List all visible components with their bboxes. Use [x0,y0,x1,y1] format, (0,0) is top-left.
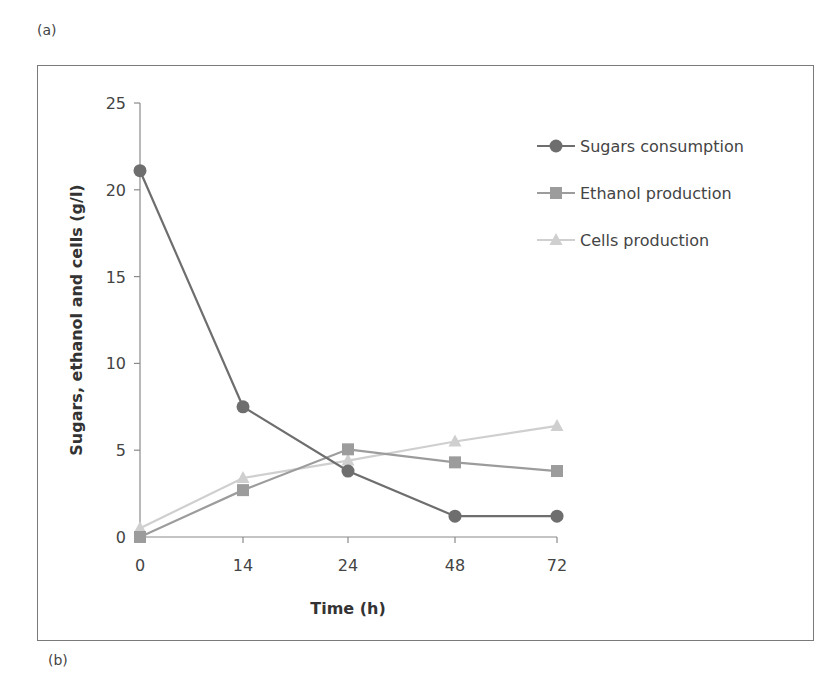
y-tick-label: 10 [106,354,126,373]
legend-item: Sugars consumption [537,137,744,156]
legend-item: Ethanol production [537,184,732,203]
x-axis: 014244872 [135,537,567,575]
series-layer [134,164,564,543]
x-tick-label: 14 [233,556,253,575]
y-tick-label: 25 [106,94,126,113]
x-tick-label: 72 [547,556,567,575]
y-tick-label: 5 [116,441,126,460]
x-tick-label: 24 [338,556,358,575]
line-chart: 0510152025 014244872 Sugars, ethanol and… [0,0,837,687]
x-tick-label: 48 [445,556,465,575]
legend-item: Cells production [537,231,709,250]
y-tick-label: 20 [106,181,126,200]
x-tick-label: 0 [135,556,145,575]
legend-label: Ethanol production [580,184,732,203]
y-tick-label: 0 [116,528,126,547]
y-axis-title: Sugars, ethanol and cells (g/l) [67,184,86,455]
legend-label: Cells production [580,231,709,250]
y-axis: 0510152025 [106,94,140,547]
y-tick-label: 15 [106,268,126,287]
legend-label: Sugars consumption [580,137,744,156]
series-sugars-consumption [134,164,564,522]
x-axis-title: Time (h) [310,599,386,618]
legend: Sugars consumptionEthanol productionCell… [537,137,744,250]
